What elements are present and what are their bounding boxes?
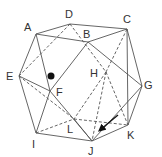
vertex-label-g: G bbox=[144, 79, 153, 91]
edge-lj bbox=[74, 119, 92, 141]
vertex-label-l: L bbox=[67, 123, 73, 135]
hidden-edge-el bbox=[19, 76, 74, 119]
vertex-label-k: K bbox=[127, 129, 135, 141]
vertex-label-h: H bbox=[90, 67, 98, 79]
edge-ck bbox=[127, 29, 128, 125]
marker-dot bbox=[48, 73, 55, 80]
hidden-edge-hk bbox=[106, 72, 128, 125]
vertex-label-j: J bbox=[88, 145, 94, 157]
edge-bg bbox=[88, 42, 142, 86]
vertex-label-d: D bbox=[65, 8, 73, 20]
vertex-label-a: A bbox=[24, 21, 32, 33]
hidden-edge-lk bbox=[74, 119, 128, 125]
edge-dc bbox=[70, 24, 127, 29]
edge-gj bbox=[92, 86, 142, 141]
dashed-edges bbox=[19, 24, 128, 141]
edge-ij bbox=[36, 133, 92, 141]
edge-bf bbox=[50, 42, 88, 91]
edge-gc bbox=[127, 29, 142, 86]
edge-ef bbox=[19, 76, 50, 91]
vertex-label-e: E bbox=[6, 70, 13, 82]
edge-ei bbox=[19, 76, 36, 133]
edge-fi bbox=[36, 91, 50, 133]
vertex-label-f: F bbox=[56, 86, 63, 98]
polyhedron-diagram: ADCBEFHGILJK bbox=[0, 0, 162, 157]
vertex-label-c: C bbox=[123, 13, 131, 25]
vertex-label-b: B bbox=[83, 28, 90, 40]
vertex-label-i: I bbox=[32, 138, 35, 150]
edge-jk bbox=[92, 125, 128, 141]
edge-af bbox=[36, 34, 50, 91]
direction-arrow bbox=[100, 115, 118, 130]
solid-edges bbox=[19, 24, 142, 141]
edge-ae bbox=[19, 34, 36, 76]
hidden-edge-hl bbox=[74, 72, 106, 119]
edge-kg bbox=[128, 86, 142, 125]
